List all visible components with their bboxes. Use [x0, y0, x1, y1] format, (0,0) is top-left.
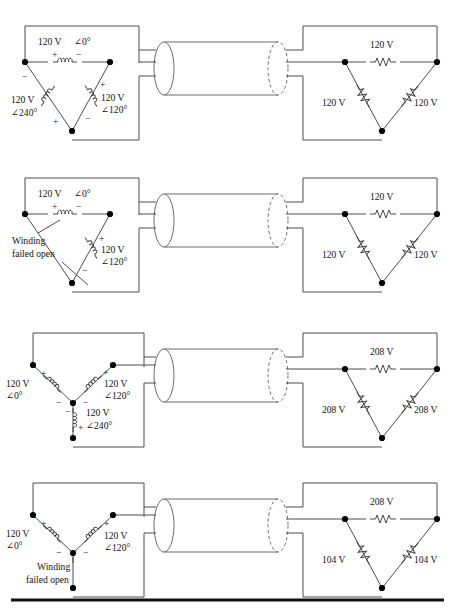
panel-1-resistor-top-value: 120 V	[370, 39, 394, 50]
junction-dot	[110, 362, 116, 368]
panel-4-winding-right-value: 120 V	[104, 530, 128, 541]
junction-dot	[107, 211, 113, 217]
panel-3-winding-right	[82, 373, 102, 392]
panel-3-winding-bottom	[73, 408, 77, 432]
panel-4-winding-right	[82, 523, 102, 542]
panel-1-winding-left-plus: +	[53, 117, 58, 127]
panel-1-winding-right-minus: −	[85, 114, 90, 124]
junction-dot	[342, 59, 348, 65]
panel-2-resistor-top-value: 120 V	[370, 191, 394, 202]
panel-4: 120 V ∠0° + − 120 V ∠120° + − Winding fa…	[6, 483, 440, 597]
panel-1-winding-top-value: 120 V	[38, 36, 62, 47]
junction-dot	[107, 59, 113, 65]
panel-4-winding-left-value: 120 V	[6, 528, 30, 539]
panel-2-winding-right-angle: ∠120°	[101, 256, 127, 267]
junction-dot	[69, 128, 75, 134]
junction-dot	[70, 435, 76, 441]
panel-3-winding-bottom-angle: ∠240°	[86, 420, 112, 431]
panel-2-resistor-left-value: 120 V	[322, 249, 346, 260]
panel-1-winding-right-angle: ∠120°	[101, 104, 127, 115]
panel-3: 120 V ∠0° + − 120 V ∠120° + − 120 V ∠240…	[6, 333, 440, 447]
panel-2-fault-leader-upper	[38, 220, 60, 233]
panel-4-resistor-right-value: 104 V	[414, 554, 438, 565]
panel-3-winding-left-angle: ∠0°	[6, 390, 23, 401]
junction-dot	[70, 400, 76, 406]
panel-2-winding-top-angle: ∠0°	[74, 188, 91, 199]
panel-1-winding-left-minus: −	[22, 72, 27, 82]
junction-dot	[22, 211, 28, 217]
junction-dot	[379, 280, 385, 286]
panel-3-winding-right-value: 120 V	[104, 378, 128, 389]
panel-1-source-delta: 120 V ∠0° + − 120 V ∠120° + − 120 V ∠240…	[11, 26, 139, 140]
panel-2-winding-right-minus: −	[82, 266, 87, 276]
junction-dot	[434, 516, 440, 522]
panel-4-cable	[144, 499, 303, 552]
panel-1-load-delta: 120 V 120 V 120 V	[303, 26, 440, 140]
junction-dot	[110, 512, 116, 518]
panel-3-winding-right-angle: ∠120°	[104, 390, 130, 401]
panel-3-resistor-right-value: 208 V	[414, 404, 438, 415]
panel-1-winding-right-value: 120 V	[101, 92, 125, 103]
panel-4-winding-left-plus: +	[41, 519, 46, 529]
panel-4-winding-right-angle: ∠120°	[104, 542, 130, 553]
junction-dot	[342, 516, 348, 522]
junction-dot	[70, 550, 76, 556]
panel-2-fault-label-line1: Winding	[12, 235, 45, 246]
junction-dot	[30, 362, 36, 368]
panel-3-cable	[144, 349, 303, 402]
panel-2-winding-top-value: 120 V	[38, 188, 62, 199]
panel-2-source-delta: 120 V ∠0° + − 120 V ∠120° + − Winding fa…	[12, 178, 139, 292]
panel-1: 120 V ∠0° + − 120 V ∠120° + − 120 V ∠240…	[11, 26, 440, 140]
panel-3-load-delta: 208 V 208 V 208 V	[303, 333, 440, 447]
junction-dot	[30, 512, 36, 518]
junction-dot	[379, 435, 385, 441]
panel-4-winding-right-plus: +	[104, 519, 109, 529]
panel-2-resistor-top	[370, 210, 396, 218]
panel-3-resistor-top-value: 208 V	[370, 346, 394, 357]
junction-dot	[69, 280, 75, 286]
panel-4-fault-label-line2: failed open	[26, 574, 69, 585]
panel-1-winding-top-angle: ∠0°	[74, 36, 91, 47]
panel-1-winding-left-value: 120 V	[11, 94, 35, 105]
junction-dot	[342, 366, 348, 372]
panel-3-winding-left-value: 120 V	[6, 378, 30, 389]
panel-4-winding-left-angle: ∠0°	[6, 540, 23, 551]
panel-3-source-wye: 120 V ∠0° + − 120 V ∠120° + − 120 V ∠240…	[6, 333, 144, 447]
panel-4-resistor-top-value: 208 V	[370, 496, 394, 507]
panel-1-winding-right-plus: +	[100, 80, 105, 90]
junction-dot	[70, 585, 76, 591]
panel-2-resistor-right-value: 120 V	[414, 249, 438, 260]
junction-dot	[434, 366, 440, 372]
panel-3-winding-left-plus: +	[41, 369, 46, 379]
panel-3-winding-bottom-minus: −	[65, 407, 70, 417]
circuit-figure: 120 V ∠0° + − 120 V ∠120° + − 120 V ∠240…	[0, 0, 455, 615]
panel-4-source-wye: 120 V ∠0° + − 120 V ∠120° + − Winding fa…	[6, 483, 144, 597]
panel-4-winding-right-minus: −	[83, 548, 88, 558]
panel-1-resistor-top	[370, 58, 396, 66]
panel-3-resistor-top	[370, 365, 396, 373]
panel-3-winding-bottom-plus: +	[78, 423, 83, 433]
panel-4-resistor-left-value: 104 V	[322, 554, 346, 565]
junction-dot	[379, 585, 385, 591]
junction-dot	[434, 59, 440, 65]
panel-3-winding-bottom-value: 120 V	[86, 407, 110, 418]
panel-4-winding-left-minus: −	[56, 548, 61, 558]
panel-1-resistor-right-value: 120 V	[414, 97, 438, 108]
panel-1-cable	[139, 42, 303, 95]
panel-3-resistor-left-value: 208 V	[322, 404, 346, 415]
panel-2-winding-right-plus: +	[99, 234, 104, 244]
panel-1-winding-top-minus: −	[76, 50, 81, 60]
junction-dot	[342, 211, 348, 217]
panel-4-load-delta: 208 V 104 V 104 V	[303, 483, 440, 597]
panel-1-winding-left-angle: ∠240°	[11, 107, 37, 118]
panel-1-winding-top-plus: +	[52, 50, 57, 60]
panel-2-fault-label-line2: failed open	[12, 248, 55, 259]
panel-2-winding-top-minus: −	[76, 202, 81, 212]
panel-2-cable	[139, 194, 303, 247]
panel-2-winding-right-value: 120 V	[101, 244, 125, 255]
junction-dot	[379, 128, 385, 134]
panel-2-load-delta: 120 V 120 V 120 V	[303, 178, 440, 292]
panel-4-fault-label-line1: Winding	[37, 561, 70, 572]
panel-3-winding-left-minus: −	[56, 398, 61, 408]
panel-3-winding-right-plus: +	[103, 368, 108, 378]
